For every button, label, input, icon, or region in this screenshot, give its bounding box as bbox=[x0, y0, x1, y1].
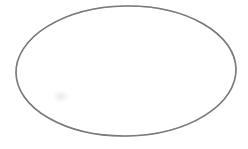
canvas-background bbox=[0, 0, 248, 149]
drawing-canvas: Ellipse outline bbox=[0, 0, 248, 149]
ellipse-figure: Ellipse outline bbox=[0, 0, 248, 149]
